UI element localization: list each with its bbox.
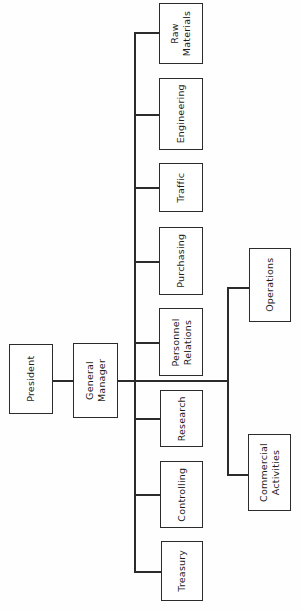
node-engineering-label: Engineering xyxy=(175,84,187,143)
node-commercial-activities-label: CommercialActivities xyxy=(258,443,281,502)
node-general-manager-label: GeneralManager xyxy=(84,359,107,402)
node-general-manager[interactable]: GeneralManager xyxy=(73,343,118,418)
node-personnel-relations-label: PersonnelRelations xyxy=(170,318,193,366)
node-commercial-activities-label-line1: Commercial xyxy=(258,443,269,502)
node-purchasing[interactable]: Purchasing xyxy=(159,227,203,295)
node-raw-materials-label-line1: Raw xyxy=(170,23,181,44)
connector-stub-treasury xyxy=(134,571,161,573)
node-general-manager-label-line2: Manager xyxy=(96,359,107,402)
connector-stub-research xyxy=(134,418,160,420)
connector-division-spine xyxy=(227,287,229,475)
node-research-label: Research xyxy=(176,396,188,441)
node-raw-materials-label-line2: Materials xyxy=(181,11,192,56)
node-operations-label: Operations xyxy=(264,258,276,312)
node-raw-materials-label: RawMaterials xyxy=(170,11,193,56)
node-controlling[interactable]: Controlling xyxy=(160,461,203,528)
node-president-label: President xyxy=(25,356,37,402)
node-purchasing-label: Purchasing xyxy=(175,234,187,288)
node-engineering[interactable]: Engineering xyxy=(159,78,203,150)
node-commercial-activities[interactable]: CommercialActivities xyxy=(248,434,291,511)
node-research[interactable]: Research xyxy=(160,390,203,447)
connector-stub-raw-materials xyxy=(134,32,160,34)
node-operations[interactable]: Operations xyxy=(249,248,291,322)
connector-stub-operations xyxy=(227,287,250,289)
node-president[interactable]: President xyxy=(9,344,53,414)
node-treasury-label: Treasury xyxy=(176,550,188,592)
node-raw-materials[interactable]: RawMaterials xyxy=(159,3,203,64)
node-personnel-relations-label-line1: Personnel xyxy=(170,318,181,366)
connector-stub-purchasing xyxy=(134,261,160,263)
node-personnel-relations[interactable]: PersonnelRelations xyxy=(159,308,203,376)
node-traffic[interactable]: Traffic xyxy=(159,163,203,212)
node-controlling-label: Controlling xyxy=(176,468,188,522)
org-chart-canvas: President GeneralManager RawMaterials En… xyxy=(0,0,301,611)
connector-stub-traffic xyxy=(134,187,160,189)
node-personnel-relations-label-line2: Relations xyxy=(181,319,192,364)
node-commercial-activities-label-line2: Activities xyxy=(270,450,281,495)
connector-stub-engineering xyxy=(134,114,160,116)
connector-stub-personnel-relations xyxy=(134,342,160,344)
connector-stub-controlling xyxy=(134,494,160,496)
node-treasury[interactable]: Treasury xyxy=(161,541,203,601)
node-traffic-label: Traffic xyxy=(175,172,187,202)
connector-stub-commercial-activities xyxy=(227,474,249,476)
connector-president-to-general-manager xyxy=(52,380,74,382)
connector-department-spine xyxy=(134,32,136,572)
node-general-manager-label-line1: General xyxy=(84,361,95,400)
